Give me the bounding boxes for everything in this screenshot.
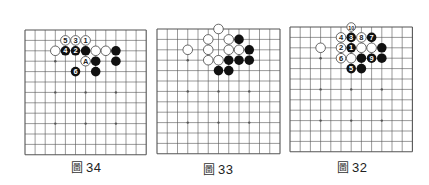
white-stone bbox=[366, 43, 376, 53]
star-point bbox=[319, 120, 321, 122]
black-stone bbox=[356, 54, 366, 64]
black-stone bbox=[111, 46, 121, 56]
star-point bbox=[115, 91, 117, 93]
white-stone bbox=[213, 55, 223, 65]
move-number-label: 1 bbox=[349, 44, 353, 53]
move-number-label: 9 bbox=[369, 54, 373, 63]
star-point bbox=[319, 88, 321, 90]
white-stone bbox=[223, 35, 233, 45]
black-stone: 6 bbox=[71, 67, 81, 77]
black-stone bbox=[223, 66, 233, 76]
white-stone bbox=[234, 45, 244, 55]
star-point bbox=[54, 60, 56, 62]
black-stone bbox=[223, 55, 233, 65]
star-point bbox=[186, 90, 188, 92]
star-point bbox=[380, 120, 382, 122]
move-number-label: 5 bbox=[63, 36, 67, 45]
board-grid: 10438721695 bbox=[284, 21, 418, 158]
star-point bbox=[54, 91, 56, 93]
star-point bbox=[248, 90, 250, 92]
white-stone: A bbox=[81, 56, 91, 66]
black-stone bbox=[356, 64, 366, 74]
white-stone: 10 bbox=[347, 23, 356, 32]
black-stone bbox=[234, 55, 244, 65]
black-stone: 9 bbox=[366, 54, 376, 64]
black-stone bbox=[234, 35, 244, 45]
black-stone: 3 bbox=[346, 33, 356, 43]
star-point bbox=[84, 122, 86, 124]
white-stone bbox=[223, 45, 233, 55]
move-number-label: 8 bbox=[359, 33, 363, 42]
black-stone bbox=[377, 54, 387, 64]
go-board-figure-34: 53142A6 bbox=[19, 24, 152, 161]
figure-prefix: 圖 bbox=[337, 161, 350, 175]
move-number-label: 3 bbox=[73, 36, 77, 45]
white-stone bbox=[51, 46, 61, 56]
move-number-label: 6 bbox=[73, 67, 77, 76]
black-stone bbox=[244, 45, 254, 55]
star-point bbox=[217, 121, 219, 123]
white-stone bbox=[346, 54, 356, 64]
white-stone bbox=[203, 35, 213, 45]
move-number-label: 3 bbox=[349, 33, 353, 42]
black-stone: 7 bbox=[366, 33, 376, 43]
white-stone bbox=[315, 43, 325, 53]
figure-caption-34: 圖34 bbox=[71, 158, 102, 175]
black-stone bbox=[81, 46, 91, 56]
move-number-label: 10 bbox=[348, 25, 354, 31]
move-number-label: 6 bbox=[339, 54, 343, 63]
white-stone: 8 bbox=[356, 33, 366, 43]
white-stone: 5 bbox=[61, 36, 71, 46]
figure-prefix: 圖 bbox=[71, 161, 84, 175]
move-number-label: 7 bbox=[369, 33, 373, 42]
white-stone: 2 bbox=[336, 43, 346, 53]
white-stone bbox=[356, 43, 366, 53]
black-stone: 5 bbox=[346, 64, 356, 74]
star-point bbox=[186, 121, 188, 123]
figure-number: 34 bbox=[86, 160, 101, 175]
figure-number: 33 bbox=[218, 162, 233, 177]
move-number-label: 2 bbox=[73, 46, 77, 55]
white-stone: 1 bbox=[81, 36, 91, 46]
figure-caption-32: 圖32 bbox=[337, 158, 368, 175]
white-stone: 6 bbox=[336, 54, 346, 64]
move-number-label: 5 bbox=[349, 64, 353, 73]
move-number-label: 1 bbox=[84, 36, 88, 45]
star-point bbox=[350, 88, 352, 90]
board-grid bbox=[151, 23, 286, 160]
white-stone bbox=[203, 55, 213, 65]
black-stone bbox=[244, 55, 254, 65]
black-stone bbox=[213, 66, 223, 76]
go-board-figure-32: 10438721695 bbox=[284, 21, 418, 158]
star-point bbox=[248, 121, 250, 123]
board-grid: 53142A6 bbox=[19, 24, 152, 161]
star-point bbox=[54, 122, 56, 124]
white-stone: 3 bbox=[71, 36, 81, 46]
white-stone bbox=[91, 46, 101, 56]
star-point bbox=[217, 90, 219, 92]
white-stone bbox=[203, 45, 213, 55]
move-number-label: 2 bbox=[339, 44, 343, 53]
figure-prefix: 圖 bbox=[203, 163, 216, 177]
black-stone bbox=[91, 67, 101, 77]
move-number-label: A bbox=[83, 57, 89, 66]
black-stone: 1 bbox=[346, 43, 356, 53]
star-point bbox=[350, 120, 352, 122]
star-point bbox=[319, 57, 321, 59]
black-stone: 4 bbox=[61, 46, 71, 56]
black-stone: 2 bbox=[71, 46, 81, 56]
star-point bbox=[115, 122, 117, 124]
star-point bbox=[84, 91, 86, 93]
go-board-figure-33 bbox=[151, 23, 286, 160]
figure-caption-33: 圖33 bbox=[203, 160, 234, 177]
white-stone bbox=[182, 45, 192, 55]
star-point bbox=[186, 59, 188, 61]
black-stone bbox=[91, 56, 101, 66]
black-stone bbox=[377, 43, 387, 53]
figure-number: 32 bbox=[352, 160, 367, 175]
white-stone bbox=[101, 46, 111, 56]
black-stone bbox=[111, 56, 121, 66]
white-stone: 4 bbox=[336, 33, 346, 43]
star-point bbox=[380, 88, 382, 90]
white-stone bbox=[213, 24, 223, 34]
